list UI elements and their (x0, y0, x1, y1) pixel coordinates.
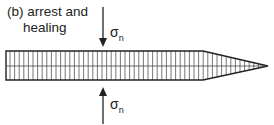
sigma-symbol: σ (110, 24, 119, 40)
down-arrow-icon (99, 38, 107, 47)
fault-band-outline (6, 51, 268, 80)
sigma-n-bottom: σn (110, 96, 124, 115)
hatching (10, 51, 268, 80)
sigma-n-top: σn (110, 24, 124, 43)
fault-diagram (0, 0, 274, 125)
sigma-symbol: σ (110, 96, 119, 112)
sigma-subscript: n (119, 33, 124, 43)
up-arrow-icon (99, 87, 107, 96)
sigma-subscript: n (119, 105, 124, 115)
